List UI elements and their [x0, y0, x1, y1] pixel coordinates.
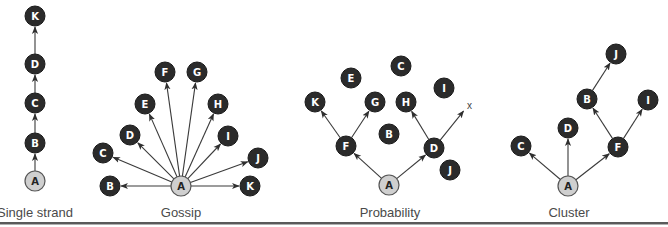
node-label: I: [646, 95, 650, 106]
node-label: J: [447, 165, 452, 176]
edge-F-to-B: [593, 108, 613, 138]
caption-probability: Probability: [360, 205, 421, 220]
node-label: C: [517, 141, 524, 152]
edge-A-to-D: [138, 143, 174, 179]
node-D: D: [120, 125, 140, 145]
caption-cluster: Cluster: [548, 205, 590, 220]
edge-F-to-K: [321, 111, 340, 138]
node-label: E: [142, 99, 149, 110]
node-label: A: [385, 180, 393, 191]
node-C: C: [93, 143, 113, 163]
node-C: C: [391, 56, 411, 76]
node-label: C: [31, 98, 38, 109]
node-label: E: [348, 73, 355, 84]
node-label: B: [385, 129, 393, 140]
node-B: B: [577, 89, 597, 109]
node-D: D: [558, 118, 578, 138]
node-G: G: [365, 92, 385, 112]
node-label: A: [564, 181, 572, 192]
node-label: B: [31, 138, 39, 149]
node-F: F: [336, 136, 356, 156]
edge-A-to-F: [167, 83, 180, 176]
edge-B-to-J: [592, 63, 610, 90]
node-I: I: [218, 126, 238, 146]
edge-A-to-D: [397, 155, 426, 179]
dead-end-marker: x: [467, 100, 472, 111]
node-label: J: [255, 153, 260, 164]
node-B: B: [25, 133, 45, 153]
node-I: I: [638, 90, 658, 110]
node-label: I: [226, 131, 230, 142]
node-label: F: [162, 67, 169, 78]
caption-single-strand: Single strand: [0, 205, 73, 220]
edge-A-to-F: [354, 153, 382, 178]
node-H: H: [396, 92, 416, 112]
node-K: K: [305, 92, 325, 112]
node-H: H: [208, 94, 228, 114]
node-label: G: [193, 67, 201, 78]
node-J: J: [440, 160, 460, 180]
node-E: E: [135, 94, 155, 114]
edge-D-to-H: [412, 111, 429, 139]
node-K: K: [240, 176, 260, 196]
node-A-origin: A: [25, 171, 45, 191]
node-label: J: [613, 49, 618, 60]
node-J: J: [248, 148, 268, 168]
edge-A-to-C: [529, 153, 560, 179]
node-A-origin: A: [558, 176, 578, 196]
node-I: I: [434, 78, 454, 98]
node-label: H: [402, 97, 410, 108]
node-label: K: [246, 181, 255, 192]
node-label: D: [31, 59, 39, 70]
diagram-gossip: ABCDEFGHIJKGossip: [93, 62, 268, 220]
node-C: C: [511, 136, 531, 156]
edge-F-to-G: [352, 111, 369, 138]
node-C: C: [25, 93, 45, 113]
node-label: C: [99, 148, 106, 159]
edge-A-to-G: [182, 83, 195, 176]
edge-D-to-x: [440, 111, 463, 140]
node-A-origin: A: [379, 175, 399, 195]
node-D: D: [424, 138, 444, 158]
node-D: D: [25, 54, 45, 74]
node-B: B: [379, 124, 399, 144]
node-label: K: [311, 97, 320, 108]
node-K: K: [25, 6, 45, 26]
node-A-origin: A: [171, 176, 191, 196]
node-label: D: [564, 123, 572, 134]
propagation-diagrams: ABCDKSingle strandABCDEFGHIJKGossipABCDE…: [0, 0, 668, 227]
edge-A-to-F: [576, 154, 609, 180]
node-F: F: [608, 137, 628, 157]
edge-A-to-C: [113, 157, 172, 182]
node-label: D: [126, 130, 134, 141]
node-label: F: [343, 141, 350, 152]
edge-A-to-J: [190, 162, 247, 183]
node-label: H: [214, 99, 222, 110]
node-B: B: [100, 176, 120, 196]
node-F: F: [155, 62, 175, 82]
edge-A-to-E: [149, 114, 177, 177]
bottom-rule: [0, 222, 668, 224]
diagram-probability: ABCDEFGHIJKxProbability: [305, 56, 472, 220]
node-label: A: [177, 181, 185, 192]
node-J: J: [606, 44, 626, 64]
node-label: F: [615, 142, 622, 153]
node-label: C: [397, 61, 404, 72]
node-G: G: [187, 62, 207, 82]
caption-gossip: Gossip: [161, 205, 201, 220]
node-E: E: [341, 68, 361, 88]
bottom-rule-shadow: [0, 224, 668, 225]
diagram-single-strand: ABCDKSingle strand: [0, 6, 73, 220]
edge-F-to-I: [623, 109, 642, 138]
node-label: I: [442, 83, 446, 94]
node-label: A: [31, 176, 39, 187]
node-label: B: [106, 181, 114, 192]
node-label: B: [583, 94, 591, 105]
node-label: K: [31, 11, 40, 22]
diagram-cluster: ABCDFIJCluster: [511, 44, 658, 220]
node-label: G: [371, 97, 379, 108]
node-label: D: [430, 143, 438, 154]
